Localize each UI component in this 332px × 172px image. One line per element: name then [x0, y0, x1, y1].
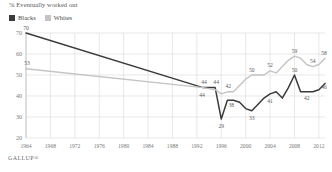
data-label-blacks-2001: 33: [249, 115, 255, 121]
x-axis-tick-label: 2000: [240, 143, 251, 149]
x-axis-tick-label: 1972: [69, 143, 80, 149]
data-label-blacks-2010: 42: [304, 95, 310, 101]
y-axis-tick-label: 70: [16, 30, 22, 36]
y-axis-ticks: 203040506070: [16, 30, 22, 141]
data-label-whites-2013: 58: [321, 50, 327, 56]
y-axis-tick-label: 40: [16, 93, 22, 99]
x-axis-tick-label: 1984: [142, 143, 153, 149]
source-attribution: GALLUP®: [8, 155, 39, 161]
data-series-group: [26, 33, 325, 119]
data-label-blacks-1993: 44: [199, 92, 205, 98]
data-label-whites-2004: 52: [267, 62, 273, 68]
y-axis-tick-label: 60: [16, 51, 22, 57]
data-point-labels: 704444293833415042465344425052595458: [23, 25, 327, 129]
grid-lines: [26, 33, 325, 138]
data-label-blacks-1997: 38: [229, 102, 235, 108]
x-axis-ticks: 1964196819721976198019841988199219962000…: [20, 143, 324, 149]
y-axis-tick-label: 20: [16, 135, 22, 141]
data-label-whites-2008: 59: [292, 48, 298, 54]
chart-container: % Eventually worked out Blacks Whites 20…: [0, 0, 332, 172]
data-label-blacks-2008: 50: [292, 67, 298, 73]
data-label-whites-1964: 53: [24, 60, 30, 66]
x-axis-tick-label: 1976: [94, 143, 105, 149]
y-axis-tick-label: 50: [16, 72, 22, 78]
x-axis-tick-label: 1968: [45, 143, 56, 149]
x-axis-tick-label: 2012: [313, 143, 324, 149]
y-axis-tick-label: 30: [16, 114, 22, 120]
data-label-blacks-1964: 70: [23, 25, 29, 31]
data-label-whites-1993: 44: [201, 79, 207, 85]
data-label-blacks-1995: 44: [213, 79, 219, 85]
data-label-whites-2011: 54: [310, 58, 316, 64]
data-label-blacks-1996: 29: [218, 123, 224, 129]
x-axis-tick-label: 1992: [191, 143, 202, 149]
x-axis-tick-label: 2008: [289, 143, 300, 149]
x-axis-tick-label: 1980: [118, 143, 129, 149]
series-line-blacks: [26, 33, 325, 119]
x-axis-tick-label: 2004: [264, 143, 275, 149]
x-axis-tick-label: 1964: [20, 143, 31, 149]
data-label-blacks-2004: 41: [267, 98, 273, 104]
data-label-whites-1997: 42: [226, 83, 232, 89]
x-axis-tick-label: 1996: [216, 143, 227, 149]
data-label-blacks-2013: 46: [321, 84, 327, 90]
x-axis-tick-label: 1988: [167, 143, 178, 149]
line-chart-plot: 203040506070 196419681972197619801984198…: [0, 0, 332, 172]
data-label-whites-2001: 50: [249, 67, 255, 73]
